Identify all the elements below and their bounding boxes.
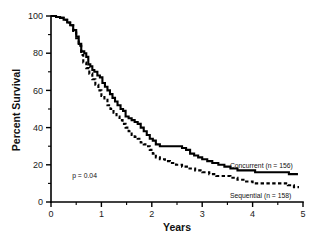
curve-concurrent	[51, 16, 298, 174]
x-tick-label: 3	[200, 209, 205, 219]
y-tick-label: 100	[28, 11, 43, 21]
x-tick-label: 0	[48, 209, 53, 219]
y-tick-label: 40	[33, 123, 43, 133]
annotation-p-value: p = 0.04	[72, 172, 97, 180]
y-tick-label: 80	[33, 48, 43, 58]
x-tick-label: 1	[99, 209, 104, 219]
y-axis-title: Percent Survival	[10, 69, 22, 151]
chart-annotations: p = 0.04	[72, 172, 97, 180]
x-tick-label: 2	[149, 209, 154, 219]
y-tick-label: 20	[33, 160, 43, 170]
survival-chart-figure: 012345020406080100 Concurrent (n = 156)S…	[0, 0, 316, 236]
series-labels: Concurrent (n = 156)Sequential (n = 158)	[230, 162, 293, 200]
axis-tick-labels: 012345020406080100	[28, 11, 306, 219]
series-label-sequential: Sequential (n = 158)	[230, 192, 291, 200]
x-tick-label: 4	[250, 209, 255, 219]
x-tick-label: 5	[300, 209, 305, 219]
series-label-concurrent: Concurrent (n = 156)	[230, 162, 293, 170]
y-tick-label: 60	[33, 86, 43, 96]
y-tick-label: 0	[38, 197, 43, 207]
chart-canvas: 012345020406080100 Concurrent (n = 156)S…	[0, 0, 316, 236]
x-axis-title: Years	[163, 221, 191, 233]
